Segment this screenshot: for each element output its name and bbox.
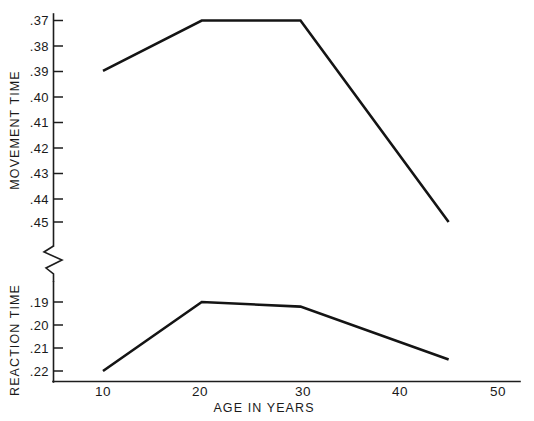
- ytick-label-038: .38: [30, 39, 49, 54]
- age-x-axis: 10 20 30 40 50 AGE IN YEARS: [53, 382, 520, 416]
- line-chart-svg: .37 .38 .39 .40 .41 .42 .43 .44 .45 MOVE…: [0, 0, 534, 421]
- movement-time-axis-title: MOVEMENT TIME: [8, 70, 22, 189]
- xtick-label-20: 20: [192, 384, 208, 399]
- ytick-label-022: .22: [30, 364, 49, 379]
- ytick-label-042: .42: [30, 141, 49, 156]
- ytick-label-041: .41: [30, 115, 49, 130]
- movement-time-y-axis: .37 .38 .39 .40 .41 .42 .43 .44 .45 MOVE…: [8, 13, 63, 246]
- ytick-label-019: .19: [30, 295, 49, 310]
- xtick-label-50: 50: [490, 384, 506, 399]
- movement-time-series-line: [103, 21, 449, 223]
- ytick-label-044: .44: [30, 192, 49, 207]
- ytick-label-021: .21: [30, 341, 49, 356]
- ytick-label-020: .20: [30, 318, 49, 333]
- reaction-time-series-line: [103, 302, 449, 371]
- ytick-label-039: .39: [30, 64, 49, 79]
- chart-figure: .37 .38 .39 .40 .41 .42 .43 .44 .45 MOVE…: [0, 0, 534, 421]
- xtick-label-10: 10: [95, 384, 111, 399]
- reaction-time-y-axis: .19 .20 .21 .22 REACTION TIME: [8, 282, 63, 396]
- ytick-label-040: .40: [30, 90, 49, 105]
- reaction-time-axis-title: REACTION TIME: [8, 284, 22, 396]
- xtick-label-40: 40: [392, 384, 408, 399]
- x-axis-title: AGE IN YEARS: [213, 401, 314, 415]
- axis-break-marker: [44, 246, 62, 282]
- ytick-label-045: .45: [30, 215, 49, 230]
- ytick-label-043: .43: [30, 166, 49, 181]
- xtick-label-30: 30: [295, 384, 311, 399]
- ytick-label-037: .37: [30, 13, 49, 28]
